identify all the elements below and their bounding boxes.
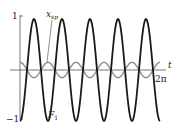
y-min-label: −1 — [6, 114, 19, 124]
f1-label: F1 — [47, 110, 58, 121]
x-sp-label: xsp — [46, 9, 58, 21]
oscillation-chart: 1 −1 t 2π xsp F1 — [0, 0, 178, 129]
x-axis-label: t — [168, 60, 172, 70]
x-end-label: 2π — [155, 74, 167, 84]
y-max-label: 1 — [12, 11, 18, 21]
x-sp-leader-line — [47, 20, 52, 62]
